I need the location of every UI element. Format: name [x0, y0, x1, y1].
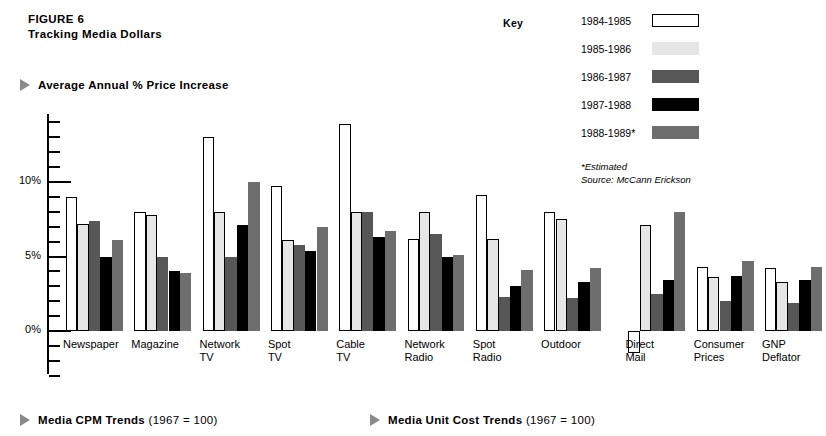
chart-bar	[100, 257, 111, 332]
y-axis-tick	[49, 375, 60, 377]
chart-bar	[430, 234, 441, 331]
chart-bar	[351, 212, 362, 331]
chart-bar	[640, 225, 651, 331]
bar-chart-plot: 0%5%10%NewspaperMagazineNetwork TVSpot T…	[0, 0, 704, 400]
chart-bar	[408, 239, 419, 331]
chart-bar	[663, 280, 674, 331]
y-axis-tick	[49, 166, 60, 168]
chart-bar	[674, 212, 685, 331]
chart-bar	[385, 231, 396, 331]
chart-bar	[590, 268, 601, 331]
y-axis-tick	[49, 181, 71, 183]
triangle-bullet-icon	[20, 414, 30, 426]
chart-bar	[146, 215, 157, 331]
chart-bar	[112, 240, 123, 331]
chart-bar	[237, 225, 248, 331]
x-axis-category-label: GNP Deflator	[762, 338, 826, 364]
y-axis-tick	[49, 285, 60, 287]
chart-bar	[765, 268, 776, 331]
chart-bar	[510, 286, 521, 331]
chart-bar	[362, 212, 373, 331]
footer-heading-unit-cost-trends: Media Unit Cost Trends (1967 = 100)	[370, 414, 595, 426]
chart-bar	[453, 255, 464, 331]
chart-bar	[89, 221, 100, 331]
triangle-bullet-icon	[370, 414, 380, 426]
y-axis-tick	[49, 196, 60, 198]
y-axis-tick	[49, 151, 60, 153]
chart-bar	[697, 267, 708, 331]
y-axis-tick	[49, 211, 60, 213]
x-axis-category-label: Outdoor	[541, 338, 621, 351]
chart-bar	[731, 276, 742, 331]
y-axis-tick-label: 0%	[7, 323, 41, 335]
chart-bar	[776, 282, 787, 331]
chart-bar	[521, 270, 532, 331]
chart-bar	[544, 212, 555, 331]
chart-bar	[339, 124, 350, 331]
chart-bar	[180, 273, 191, 331]
y-axis-tick	[49, 270, 60, 272]
chart-bar	[66, 197, 77, 331]
chart-bar	[373, 237, 384, 331]
chart-bar	[651, 294, 662, 331]
y-axis-tick	[49, 315, 60, 317]
chart-bar	[203, 137, 214, 331]
chart-bar	[77, 224, 88, 331]
chart-bar	[419, 212, 430, 331]
chart-bar	[282, 240, 293, 331]
chart-bar	[294, 245, 305, 331]
chart-bar	[556, 219, 567, 331]
chart-bar	[476, 195, 487, 331]
chart-bar	[708, 277, 719, 331]
chart-bar	[157, 257, 168, 332]
chart-bar	[169, 271, 180, 331]
y-axis-tick	[49, 345, 60, 347]
chart-bar	[499, 297, 510, 331]
chart-bar	[317, 227, 328, 331]
chart-bar	[442, 257, 453, 332]
chart-bar	[578, 282, 589, 331]
chart-bar	[788, 303, 799, 331]
chart-bar	[487, 239, 498, 331]
y-axis-tick	[49, 226, 60, 228]
footer-label-cpm: Media CPM Trends (1967 = 100)	[38, 414, 218, 426]
chart-bar	[271, 186, 282, 331]
y-axis-tick-label: 10%	[7, 174, 41, 186]
y-axis-tick	[49, 136, 60, 138]
y-axis-tick	[49, 360, 60, 362]
chart-bar	[799, 280, 810, 331]
y-axis-tick	[49, 121, 60, 123]
chart-bar	[134, 212, 145, 331]
y-axis-tick	[49, 241, 60, 243]
chart-bar	[811, 267, 822, 331]
chart-bar	[225, 257, 236, 332]
chart-bar	[248, 182, 259, 331]
y-axis-tick-label: 5%	[7, 249, 41, 261]
chart-bar	[305, 251, 316, 331]
chart-bar	[214, 212, 225, 331]
chart-bar	[742, 261, 753, 331]
y-axis-tick	[49, 300, 60, 302]
chart-bar	[567, 298, 578, 331]
chart-bar	[720, 301, 731, 331]
footer-heading-cpm-trends: Media CPM Trends (1967 = 100)	[20, 414, 218, 426]
footer-label-unit-cost: Media Unit Cost Trends (1967 = 100)	[388, 414, 595, 426]
